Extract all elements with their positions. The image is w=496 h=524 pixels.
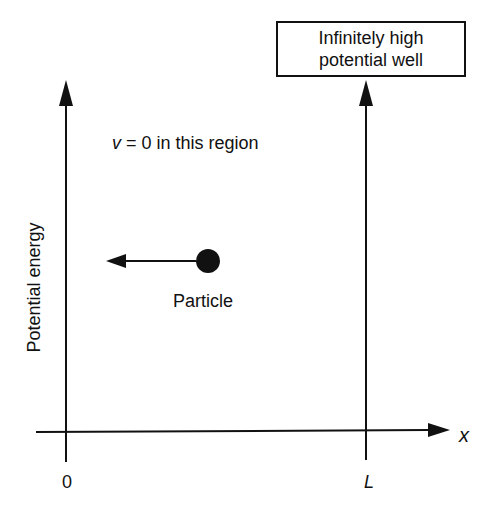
particle-dot-icon [196,249,220,273]
box-line-1: Infinitely high [318,27,423,49]
diagram-canvas [0,0,496,524]
x-tick-0: 0 [62,472,72,493]
x-axis-line [36,430,428,432]
box-line-2: potential well [319,49,423,71]
left-wall-arrowhead-icon [59,80,73,106]
y-axis-label: Potential energy [24,218,45,358]
x-axis-arrowhead-icon [428,423,450,437]
region-label: v = 0 in this region [112,133,259,154]
x-axis-label: x [459,424,469,447]
particle-label: Particle [173,291,233,312]
region-label-text: = 0 in this region [121,133,259,153]
infinite-well-label-box: Infinitely high potential well [276,21,466,77]
velocity-arrowhead-icon [106,254,126,268]
right-wall-arrowhead-icon [359,80,373,106]
x-tick-L: L [364,472,374,493]
potential-variable: v [112,133,121,153]
